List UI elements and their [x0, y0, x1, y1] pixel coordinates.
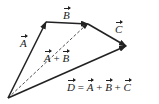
vector-b [46, 22, 88, 24]
label-eq: = [75, 81, 87, 93]
label-b: B [63, 10, 70, 21]
label-d-b: B [105, 82, 112, 93]
label-b-text: B [63, 10, 70, 21]
vector-addition-diagram: A B C A + B D = A + B + C [0, 0, 159, 104]
label-ab-b: B [62, 53, 69, 64]
label-plus-1: + [93, 81, 105, 93]
label-d: D [67, 82, 75, 93]
label-c-text: C [115, 24, 122, 35]
label-a-plus-b: A + B [44, 53, 69, 64]
label-d-c: C [124, 82, 131, 93]
label-ab-plus: + [51, 52, 63, 64]
label-a-text: A [20, 38, 27, 49]
label-c: C [115, 24, 122, 35]
label-d-a: A [87, 82, 94, 93]
label-ab-a: A [44, 53, 51, 64]
label-plus-2: + [112, 81, 124, 93]
label-d-equation: D = A + B + C [67, 82, 131, 93]
label-a: A [20, 38, 27, 49]
